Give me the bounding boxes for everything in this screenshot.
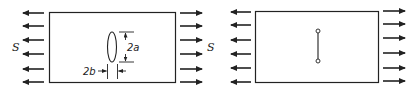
hole-width-label: 2b — [83, 66, 96, 77]
dimension-2b — [98, 64, 126, 79]
crack-tip-top — [316, 29, 320, 33]
hole-height-label: 2a — [127, 42, 140, 53]
crack-tip-bottom — [316, 59, 320, 63]
plate-left — [50, 13, 176, 83]
tension-arrows-left — [23, 13, 44, 82]
crack — [316, 29, 320, 63]
stress-label-right: S — [207, 41, 215, 54]
panel-elliptical-hole: S S 2a 2b — [12, 13, 215, 83]
tension-arrows-right — [383, 11, 405, 81]
tension-arrows-right — [180, 13, 202, 82]
plate-right — [256, 12, 379, 83]
panel-crack — [231, 11, 405, 83]
elliptical-hole — [108, 32, 117, 62]
stress-concentration-diagram: S S 2a 2b — [0, 0, 419, 92]
stress-label-left: S — [12, 41, 20, 54]
tension-arrows-left — [231, 12, 251, 82]
